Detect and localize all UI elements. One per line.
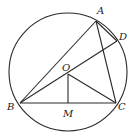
geometry-diagram: A D B C O M (0, 0, 136, 140)
point-label-o: O (62, 62, 70, 73)
point-label-c: C (118, 101, 126, 112)
segment-oc (68, 74, 116, 103)
point-label-m: M (62, 108, 74, 119)
point-label-a: A (96, 5, 104, 16)
point-label-d: D (118, 31, 127, 42)
segment-ad (96, 21, 117, 41)
labels-group: A D B C O M (6, 5, 127, 119)
point-label-b: B (6, 101, 14, 112)
